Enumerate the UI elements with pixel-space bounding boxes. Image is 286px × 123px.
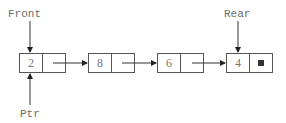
node-1-value: 2 [28,56,34,70]
node-3-value: 6 [166,56,172,70]
node-2-value: 8 [97,56,103,70]
ptr-label: Ptr [20,108,40,120]
front-label: Front [8,8,41,20]
null-terminator-icon [258,60,264,66]
list-node-4: 4 [227,54,273,73]
rear-label: Rear [224,8,250,20]
linked-list-diagram: Front Ptr Rear 2 8 6 4 [0,0,286,123]
node-4-value: 4 [235,56,241,70]
